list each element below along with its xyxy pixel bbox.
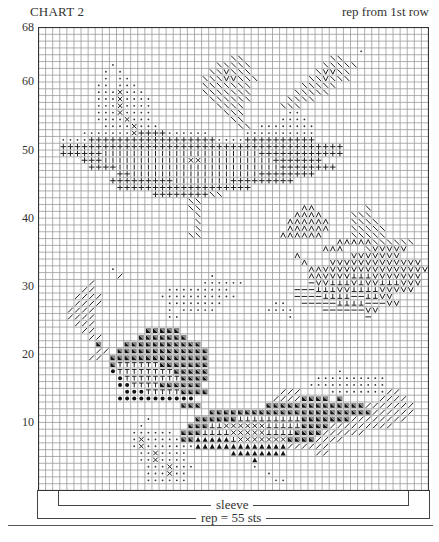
repeat-note: rep from 1st row: [342, 4, 429, 20]
repeat-label: rep = 55 sts: [196, 511, 266, 524]
y-tick-label: 20: [4, 347, 34, 362]
y-tick-label: 50: [4, 143, 34, 158]
divider-rule: [8, 525, 433, 526]
chart-title: CHART 2: [30, 4, 84, 20]
y-tick-label: 68: [4, 20, 34, 35]
y-tick-label: 40: [4, 211, 34, 226]
y-tick-label: 60: [4, 74, 34, 89]
y-tick-label: 10: [4, 415, 34, 430]
y-tick-label: 30: [4, 279, 34, 294]
stitch-chart-grid: [38, 27, 429, 491]
